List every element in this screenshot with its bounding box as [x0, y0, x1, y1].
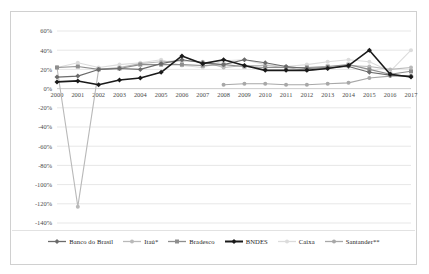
data-point-marker	[130, 240, 134, 244]
legend-item-label: Itaú*	[144, 238, 158, 245]
legend-item-label: Santander**	[346, 238, 380, 245]
data-point-marker	[55, 239, 60, 244]
x-axis-tick-label: 2008	[217, 91, 230, 98]
x-axis-tick-label: 2011	[280, 91, 293, 98]
y-axis-tick-label: -140%	[35, 219, 53, 226]
x-axis-tick-label: 2003	[113, 91, 126, 98]
data-point-marker	[242, 82, 246, 86]
legend-item-santander[interactable]: Santander**	[324, 237, 380, 246]
y-axis-tick-label: -120%	[35, 200, 53, 207]
data-point-marker	[409, 48, 413, 52]
y-axis-tick-label: 20%	[40, 66, 52, 73]
data-point-marker	[367, 76, 371, 80]
legend-item-label: BNDES	[246, 238, 268, 245]
y-axis-tick-label: -20%	[38, 104, 53, 111]
x-axis-tick-label: 2010	[259, 91, 272, 98]
data-point-marker	[388, 67, 392, 71]
plot-area: 60%40%20%0%-20%-40%-60%-80%-100%-120%-14…	[11, 12, 416, 264]
legend-swatch-icon	[324, 237, 344, 246]
y-axis-tick-label: -80%	[38, 162, 53, 169]
data-point-marker	[332, 240, 336, 244]
data-point-marker	[285, 240, 289, 244]
data-point-marker	[409, 65, 413, 69]
legend-item-ita[interactable]: Itaú*	[122, 237, 158, 246]
data-point-marker	[263, 82, 267, 86]
x-axis-tick-label: 2013	[321, 91, 334, 98]
data-point-marker	[367, 60, 371, 64]
x-axis-tick-label: 2016	[384, 91, 397, 98]
y-axis-tick-label: -100%	[35, 181, 53, 188]
y-axis-tick-label: 60%	[40, 27, 52, 34]
x-axis-tick-label: 2006	[176, 91, 189, 98]
data-point-marker	[75, 74, 80, 79]
legend-item-caixa[interactable]: Caixa	[277, 237, 315, 246]
data-point-marker	[305, 83, 309, 87]
x-axis-tick-label: 2012	[300, 91, 313, 98]
legend-item-label: Bradesco	[189, 238, 214, 245]
y-axis-tick-label: 40%	[40, 47, 52, 54]
data-point-marker	[326, 60, 330, 64]
data-point-marker	[326, 82, 330, 86]
chart-container: 60%40%20%0%-20%-40%-60%-80%-100%-120%-14…	[10, 11, 417, 265]
data-point-marker	[347, 81, 351, 85]
x-axis-tick-label: 2001	[71, 91, 84, 98]
series-line-bndes	[57, 50, 411, 85]
data-point-marker	[242, 57, 247, 62]
y-axis-tick-label: -60%	[38, 143, 53, 150]
data-point-marker	[138, 63, 142, 67]
data-point-marker	[117, 77, 122, 82]
legend-swatch-icon	[167, 237, 187, 246]
data-point-marker	[75, 78, 80, 83]
legend-item-bradesco[interactable]: Bradesco	[167, 237, 214, 246]
line-chart-svg: 60%40%20%0%-20%-40%-60%-80%-100%-120%-14…	[11, 12, 418, 266]
data-point-marker	[76, 61, 80, 65]
x-axis-tick-label: 2005	[155, 91, 168, 98]
x-axis-tick-label: 2017	[405, 91, 418, 98]
series-line-santander	[224, 76, 411, 85]
chart-legend: Banco do BrasilItaú*BradescoBNDESCaixaSa…	[12, 230, 415, 250]
x-axis-tick-label: 2015	[363, 91, 376, 98]
legend-swatch-icon	[224, 237, 244, 246]
x-axis-tick-label: 2007	[196, 91, 210, 98]
legend-swatch-icon	[277, 237, 297, 246]
data-point-marker	[76, 65, 80, 69]
x-axis-tick-label: 2009	[238, 91, 251, 98]
x-axis-tick-label: 2014	[342, 91, 356, 98]
legend-item-banco-do-brasil[interactable]: Banco do Brasil	[47, 237, 113, 246]
data-point-marker	[231, 239, 236, 244]
data-point-marker	[409, 69, 413, 73]
x-axis-tick-label: 2004	[134, 91, 148, 98]
legend-item-label: Caixa	[299, 238, 315, 245]
data-point-marker	[222, 83, 226, 87]
data-point-marker	[138, 67, 143, 72]
legend-item-label: Banco do Brasil	[69, 238, 113, 245]
data-point-marker	[180, 63, 184, 67]
data-point-marker	[284, 83, 288, 87]
data-point-marker	[55, 65, 59, 69]
data-point-marker	[175, 240, 179, 244]
legend-item-bndes[interactable]: BNDES	[224, 237, 268, 246]
legend-swatch-icon	[47, 237, 67, 246]
y-axis-tick-label: -40%	[38, 123, 53, 130]
data-point-marker	[138, 76, 143, 81]
data-point-marker	[76, 205, 80, 209]
legend-swatch-icon	[122, 237, 142, 246]
data-point-marker	[347, 58, 351, 62]
